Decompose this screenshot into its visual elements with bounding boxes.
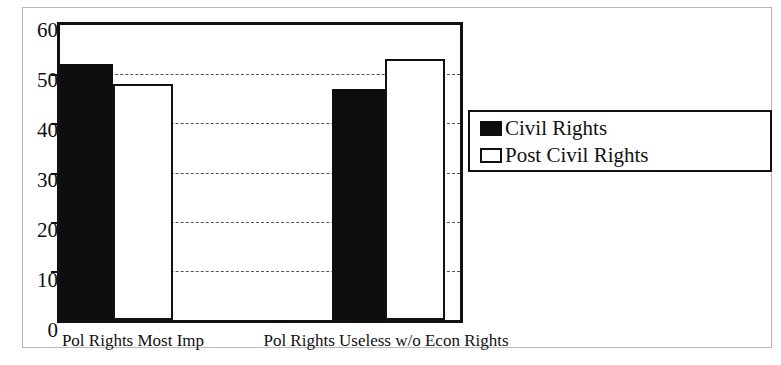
bar-group-1-series-1 [60, 64, 113, 320]
tick-mark-50 [51, 74, 60, 76]
y-tick-label-10: 10 [24, 270, 58, 291]
legend-label-post-civil-rights: Post Civil Rights [505, 144, 649, 166]
y-tick-label-60: 60 [24, 20, 58, 41]
y-tick-label-50: 50 [24, 70, 58, 91]
legend-item-post-civil-rights: Post Civil Rights [480, 142, 649, 168]
legend-swatch-black-icon [480, 121, 502, 136]
bar-group-2-series-2 [385, 59, 445, 320]
legend-label-civil-rights: Civil Rights [505, 117, 607, 139]
tick-mark-40 [51, 123, 60, 125]
bar-group-2-series-1 [332, 89, 385, 320]
plot-inner [60, 25, 460, 320]
y-axis: 60 50 40 30 20 10 0 [24, 10, 58, 340]
x-axis-label-group-1: Pol Rights Most Imp [40, 331, 226, 350]
tick-mark-10 [51, 271, 60, 273]
bar-group-1-series-2 [113, 84, 173, 320]
legend: Civil Rights Post Civil Rights [468, 110, 772, 172]
tick-mark-30 [51, 173, 60, 175]
legend-swatch-white-icon [480, 148, 502, 163]
chart-figure: 60 50 40 30 20 10 0 Pol Rights Most Imp … [0, 0, 781, 365]
tick-mark-20 [51, 222, 60, 224]
legend-item-civil-rights: Civil Rights [480, 115, 607, 141]
x-axis-label-group-2: Pol Rights Useless w/o Econ Rights [262, 331, 510, 350]
plot-area [57, 22, 463, 323]
